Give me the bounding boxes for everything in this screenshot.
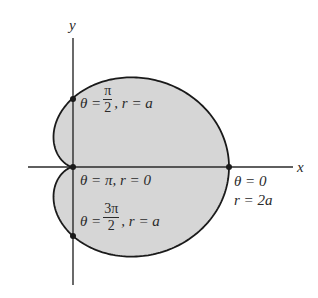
point-theta-pi bbox=[70, 164, 76, 170]
label-theta: θ = bbox=[80, 213, 101, 229]
point-theta-3pi-over-2 bbox=[70, 233, 76, 239]
label-theta-pi-over-2: θ =π2, r = a bbox=[80, 94, 153, 115]
label-rest: , r = a bbox=[114, 95, 152, 111]
fraction-numerator: 3π bbox=[103, 202, 119, 218]
label-theta-pi: θ = π, r = 0 bbox=[80, 173, 151, 188]
fraction-denominator: 2 bbox=[103, 218, 119, 233]
fraction-pi-over-2: π2 bbox=[103, 84, 112, 115]
point-theta-pi-over-2 bbox=[70, 96, 76, 102]
label-theta: θ = bbox=[80, 95, 101, 111]
label-theta-0: θ = 0 r = 2a bbox=[234, 174, 272, 208]
point-theta-0 bbox=[226, 164, 232, 170]
label-theta-0-line1: θ = 0 bbox=[234, 174, 272, 189]
y-axis-label: y bbox=[69, 18, 76, 33]
x-axis-label: x bbox=[297, 160, 304, 175]
label-theta-3pi-over-2: θ =3π2, r = a bbox=[80, 212, 160, 233]
fraction-3pi-over-2: 3π2 bbox=[103, 202, 119, 233]
cardioid-diagram bbox=[0, 0, 318, 298]
fraction-numerator: π bbox=[103, 84, 112, 100]
label-rest: , r = a bbox=[121, 213, 159, 229]
label-theta-0-line2: r = 2a bbox=[234, 193, 272, 208]
fraction-denominator: 2 bbox=[103, 100, 112, 115]
